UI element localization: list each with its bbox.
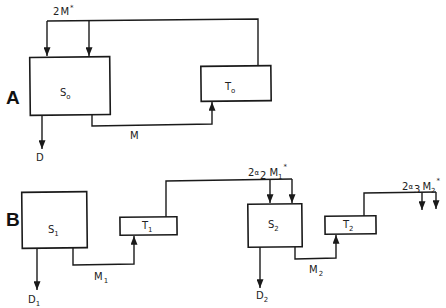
panel-b: B S1 D1 M1 T1 2α2M1* S2	[6, 163, 440, 308]
panel-a: A 2M* So To D M	[6, 4, 271, 163]
feedback-label-a: 2M*	[53, 4, 74, 17]
flow-label-m: M	[130, 130, 139, 141]
feedback-line-b2	[364, 192, 436, 216]
source-box-s1	[22, 192, 88, 249]
feedback-label-b1: 2α2M1*	[248, 163, 287, 181]
demand-label-b2: D2	[256, 290, 268, 304]
flow-label-m1: M1	[94, 271, 108, 285]
demand-label-a: D	[36, 152, 44, 163]
source-box-s0	[30, 57, 111, 116]
panel-a-label: A	[6, 87, 20, 108]
target-box-t0	[201, 66, 271, 102]
flow-diagram: A 2M* So To D M B S1	[0, 0, 446, 308]
panel-b-label: B	[6, 209, 20, 230]
demand-label-b1: D1	[28, 294, 40, 308]
flow-label-m2: M2	[309, 264, 323, 278]
